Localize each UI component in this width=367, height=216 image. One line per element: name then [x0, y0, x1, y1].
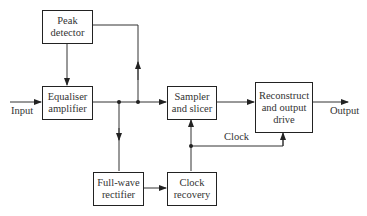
rectifier-line2: rectifier [102, 189, 135, 200]
sampler-line1: Sampler [175, 91, 210, 102]
input-label: Input [11, 105, 33, 116]
clock-recovery-line2: recovery [174, 189, 211, 200]
clock-recovery-line1: Clock [179, 177, 204, 188]
equaliser-line1: Equaliser [48, 91, 88, 102]
junction-dot [136, 100, 140, 104]
rectifier-line1: Full-wave [97, 177, 140, 188]
reconstruct-line2: and output [262, 102, 307, 113]
full-wave-rectifier-block: Full-waverectifier [93, 172, 144, 206]
clock-label: Clock [224, 131, 249, 142]
reconstruct-output-block: Reconstructand outputdrive [255, 82, 313, 133]
output-label: Output [330, 105, 359, 116]
equaliser-amplifier-block: Equaliseramplifier [42, 86, 93, 120]
peak-detector-line1: Peak [57, 15, 77, 26]
equaliser-line2: amplifier [48, 103, 86, 114]
reconstruct-line3: drive [273, 114, 295, 125]
reconstruct-line1: Reconstruct [259, 90, 309, 101]
sampler-line2: and slicer [172, 103, 213, 114]
peak-detector-block: Peakdetector [42, 10, 93, 44]
clock-recovery-block: Clockrecovery [167, 172, 217, 206]
peak-detector-line2: detector [51, 27, 85, 38]
junction-dot [189, 144, 193, 148]
sampler-slicer-block: Samplerand slicer [167, 86, 217, 120]
junction-dot [117, 100, 121, 104]
